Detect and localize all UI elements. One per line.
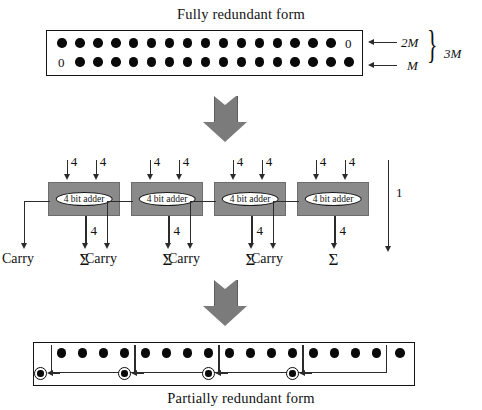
weight-label-m: M	[407, 59, 418, 72]
adder-block-1-label: 4 bit adder	[56, 192, 113, 206]
fully-redundant-dot	[326, 38, 336, 48]
adder-3-sum-arrowhead	[248, 243, 254, 249]
adder-4-sum-line	[334, 216, 335, 243]
adder-2-sum-arrowhead	[165, 243, 171, 249]
fully-redundant-dot	[57, 38, 67, 48]
adder-2-input-2-arrowhead	[176, 174, 182, 180]
adder-3-sum-width-label: 4	[256, 224, 263, 237]
weight-arrow-2m-head	[368, 39, 374, 45]
adder-4-carry-label: Carry	[251, 252, 283, 266]
fully-redundant-dot	[165, 57, 175, 67]
adder-1-sum-width-label: 4	[90, 224, 97, 237]
adder-2-input-2-width-label: 4	[183, 155, 190, 168]
fully-redundant-dot	[147, 38, 157, 48]
weight-arrow-m-head	[368, 62, 374, 68]
adder-3-carry-line-v	[190, 201, 191, 245]
adder-block-3[interactable]: 4 bit adder	[214, 182, 286, 216]
partially-redundant-dot	[183, 348, 193, 358]
passthrough-arrowhead	[385, 246, 391, 252]
carry-feed-arrowhead-3	[215, 370, 221, 376]
total-label-3m: 3M	[444, 47, 461, 60]
adder-4-carry-line-h	[273, 201, 299, 202]
carry-marker-2	[118, 367, 131, 380]
adder-4-input-2-width-label: 4	[349, 155, 356, 168]
adder-1-carry-arrowhead	[21, 243, 27, 249]
weight-label-2m: 2M	[401, 36, 418, 49]
fully-redundant-box: 0 0	[46, 30, 363, 76]
adder-3-carry-arrowhead	[187, 243, 193, 249]
adder-1-input-1-arrowhead	[64, 174, 70, 180]
adder-2-input-1-width-label: 4	[154, 155, 161, 168]
total-brace: }	[427, 25, 438, 65]
adder-4-input-2-arrowhead	[342, 174, 348, 180]
fully-redundant-dot	[273, 57, 283, 67]
fully-redundant-dot	[255, 57, 265, 67]
adder-block-1[interactable]: 4 bit adder	[48, 182, 120, 216]
fully-redundant-dot	[129, 57, 139, 67]
partially-redundant-dot	[99, 348, 109, 358]
fully-redundant-dot	[165, 38, 175, 48]
adder-3-input-2-arrowhead	[259, 174, 265, 180]
fully-redundant-leading-zero: 0	[58, 56, 65, 69]
fully-redundant-dot	[290, 38, 300, 48]
adder-1-input-2-arrowhead	[93, 174, 99, 180]
adder-1-sum-arrowhead	[82, 243, 88, 249]
adder-1-sum-line	[85, 216, 86, 243]
partially-redundant-box	[33, 342, 415, 386]
top-caption: Fully redundant form	[0, 6, 482, 23]
fully-redundant-dot	[290, 57, 300, 67]
bottom-caption: Partially redundant form	[0, 390, 482, 407]
adder-4-input-1-width-label: 4	[320, 155, 327, 168]
fully-redundant-dot	[111, 57, 121, 67]
adder-3-input-1-arrowhead	[230, 174, 236, 180]
passthrough-line	[388, 160, 389, 250]
partially-redundant-dot	[204, 348, 214, 358]
fully-redundant-dot	[111, 38, 121, 48]
carry-marker-4	[286, 367, 299, 380]
fully-redundant-dot	[75, 57, 85, 67]
fully-redundant-dot	[201, 57, 211, 67]
adder-2-sum-width-label: 4	[173, 224, 180, 237]
figure-root: { "figure": { "top_caption": "Fully redu…	[0, 0, 482, 410]
fully-redundant-dot	[147, 57, 157, 67]
adder-block-2[interactable]: 4 bit adder	[131, 182, 203, 216]
adder-1-carry-line-h	[24, 201, 50, 202]
carry-feed-arrowhead-2	[131, 370, 137, 376]
adder-4-carry-line-v	[273, 201, 274, 245]
adder-3-carry-line-h	[190, 201, 216, 202]
flow-arrow-bottom	[200, 280, 250, 326]
fully-redundant-dot	[183, 38, 193, 48]
fully-redundant-dot	[219, 57, 229, 67]
fully-redundant-dot	[237, 38, 247, 48]
partially-redundant-dot	[351, 348, 361, 358]
fully-redundant-dot	[326, 57, 336, 67]
fully-redundant-dot	[237, 57, 247, 67]
adder-2-input-1-arrowhead	[147, 174, 153, 180]
partially-redundant-dot	[267, 348, 277, 358]
adder-block-2-label: 4 bit adder	[139, 192, 196, 206]
partially-redundant-dot	[120, 348, 130, 358]
passthrough-label-1: 1	[396, 186, 403, 199]
adder-2-sum-line	[168, 216, 169, 243]
carry-feed-arrowhead-4	[299, 370, 305, 376]
adder-block-4[interactable]: 4 bit adder	[297, 182, 369, 216]
carry-marker-1	[34, 367, 47, 380]
adder-1-carry-label: Carry	[2, 252, 34, 266]
fully-redundant-dot	[183, 57, 193, 67]
adder-1-input-1-width-label: 4	[71, 155, 78, 168]
fully-redundant-dot	[219, 38, 229, 48]
adder-3-carry-label: Carry	[168, 252, 200, 266]
fully-redundant-dot	[308, 38, 318, 48]
partially-redundant-extra-dot	[395, 348, 405, 358]
flow-arrow-top	[200, 96, 250, 142]
fully-redundant-trailing-zero: 0	[345, 37, 352, 50]
partially-redundant-dot	[309, 348, 319, 358]
adder-3-input-2-width-label: 4	[266, 155, 273, 168]
weight-arrow-m-line	[371, 65, 397, 66]
adder-3-input-1-width-label: 4	[237, 155, 244, 168]
adder-1-input-2-width-label: 4	[100, 155, 107, 168]
fully-redundant-dot	[201, 38, 211, 48]
adder-block-3-label: 4 bit adder	[222, 192, 279, 206]
partially-redundant-dot	[141, 348, 151, 358]
adder-2-carry-line-v	[107, 201, 108, 245]
